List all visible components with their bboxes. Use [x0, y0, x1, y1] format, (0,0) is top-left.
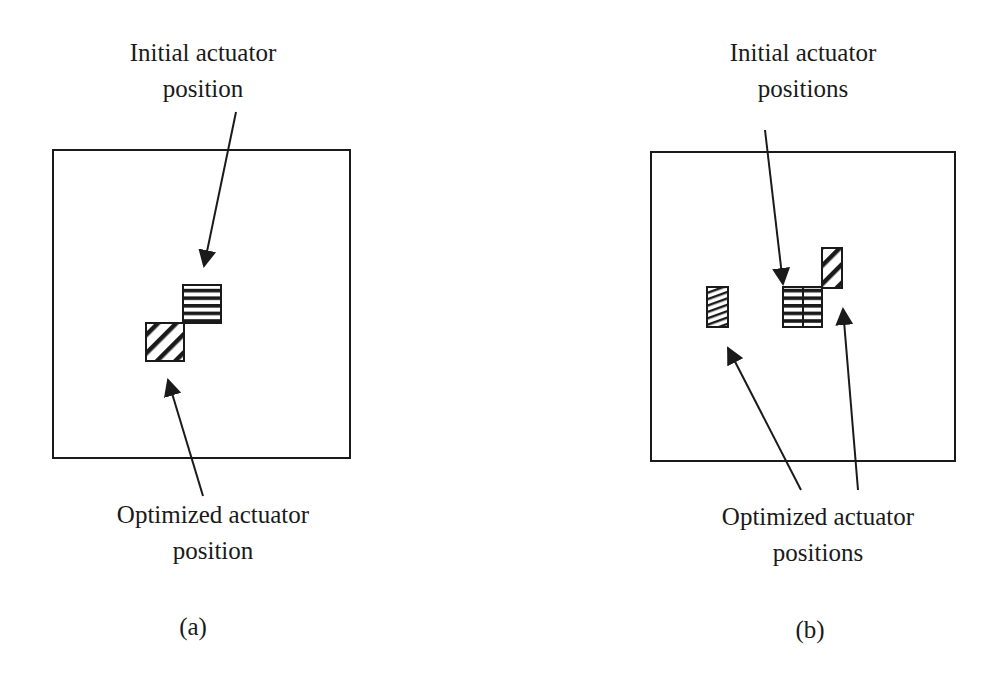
initial-label-a: Initial actuator position	[83, 38, 323, 104]
optimized-label-a-line2: position	[83, 536, 343, 566]
initial-label-b: Initial actuator positions	[683, 38, 923, 104]
arrow-initial-b	[765, 130, 783, 284]
initial-actuators-b	[783, 287, 822, 327]
arrow-initial-a	[204, 112, 236, 266]
initial-label-a-line1: Initial actuator	[83, 38, 323, 68]
initial-actuator-a	[183, 285, 221, 323]
optimized-actuator-b-right	[822, 248, 842, 288]
arrow-optimized-b-left	[728, 348, 801, 490]
panel-b	[651, 130, 955, 490]
caption-a: (a)	[163, 612, 223, 642]
optimized-actuator-a	[146, 323, 184, 361]
optimized-label-a: Optimized actuator position	[83, 500, 343, 566]
caption-b: (b)	[780, 615, 840, 645]
optimized-label-b: Optimized actuator positions	[688, 502, 948, 568]
initial-label-b-line1: Initial actuator	[683, 38, 923, 68]
panel-a	[53, 112, 350, 496]
initial-label-b-line2: positions	[683, 74, 923, 104]
arrow-optimized-a	[168, 380, 203, 496]
initial-label-a-line2: position	[83, 74, 323, 104]
optimized-label-b-line1: Optimized actuator	[688, 502, 948, 532]
optimized-label-a-line1: Optimized actuator	[83, 500, 343, 530]
optimized-actuator-b-left	[707, 287, 728, 327]
optimized-label-b-line2: positions	[688, 538, 948, 568]
arrow-optimized-b-right	[843, 309, 858, 490]
